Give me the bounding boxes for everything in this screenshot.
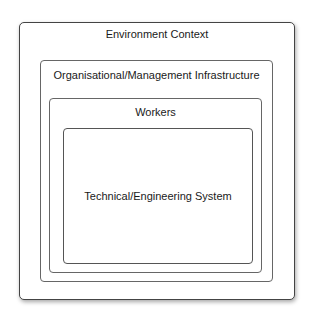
technical-system-label: Technical/Engineering System: [64, 190, 252, 202]
technical-system-box: Technical/Engineering System: [63, 128, 253, 264]
workers-label: Workers: [50, 106, 261, 118]
organisational-infrastructure-label: Organisational/Management Infrastructure: [41, 69, 272, 81]
environment-context-label: Environment Context: [20, 28, 294, 40]
